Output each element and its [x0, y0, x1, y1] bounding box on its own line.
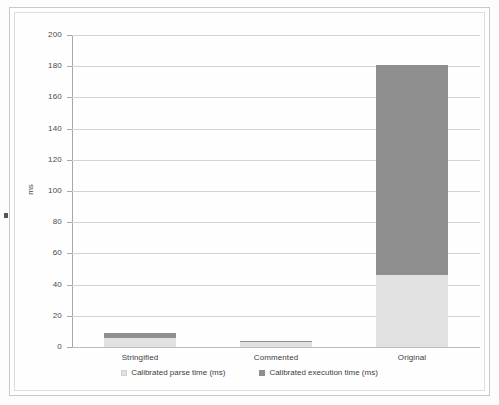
gridline-0 [72, 347, 480, 348]
y-tick-label-160: 160 [16, 92, 62, 101]
bar-original[interactable] [376, 35, 448, 347]
legend-swatch-execution-icon [259, 370, 265, 376]
legend-item-parse[interactable]: Calibrated parse time (ms) [121, 368, 225, 377]
y-tick-140 [67, 129, 72, 130]
plot-area [72, 35, 480, 347]
y-tick-100 [67, 191, 72, 192]
bar-segment-commented-execution[interactable] [240, 341, 312, 343]
y-tick-60 [67, 253, 72, 254]
bar-commented[interactable] [240, 35, 312, 347]
y-tick-label-120: 120 [16, 155, 62, 164]
y-tick-120 [67, 160, 72, 161]
y-tick-180 [67, 66, 72, 67]
y-tick-40 [67, 285, 72, 286]
y-tick-label-20: 20 [16, 311, 62, 320]
legend-label-execution: Calibrated execution time (ms) [269, 368, 377, 377]
page-edge-artifact [4, 213, 8, 218]
y-tick-label-140: 140 [16, 124, 62, 133]
legend-swatch-parse-icon [121, 370, 127, 376]
bar-chart: ms 020406080100120140160180200 Stringifi… [14, 12, 485, 391]
y-tick-160 [67, 97, 72, 98]
y-tick-label-60: 60 [16, 248, 62, 257]
y-tick-label-40: 40 [16, 280, 62, 289]
x-label-original: Original [344, 353, 480, 362]
x-label-commented: Commented [208, 353, 344, 362]
y-tick-label-0: 0 [16, 342, 62, 351]
chart-legend: Calibrated parse time (ms) Calibrated ex… [14, 368, 485, 377]
y-tick-200 [67, 35, 72, 36]
y-tick-80 [67, 222, 72, 223]
bar-segment-original-execution[interactable] [376, 65, 448, 276]
y-tick-label-100: 100 [16, 186, 62, 195]
x-label-stringified: Stringified [72, 353, 208, 362]
legend-label-parse: Calibrated parse time (ms) [131, 368, 225, 377]
y-tick-20 [67, 316, 72, 317]
bar-segment-commented-parse[interactable] [240, 342, 312, 347]
bar-stringified[interactable] [104, 35, 176, 347]
legend-item-execution[interactable]: Calibrated execution time (ms) [259, 368, 377, 377]
y-tick-label-180: 180 [16, 61, 62, 70]
y-tick-0 [67, 347, 72, 348]
bar-segment-stringified-parse[interactable] [104, 338, 176, 347]
scanned-page: ms 020406080100120140160180200 Stringifi… [0, 0, 499, 405]
y-tick-label-80: 80 [16, 217, 62, 226]
bar-segment-original-parse[interactable] [376, 275, 448, 347]
y-tick-label-200: 200 [16, 30, 62, 39]
bar-segment-stringified-execution[interactable] [104, 333, 176, 338]
